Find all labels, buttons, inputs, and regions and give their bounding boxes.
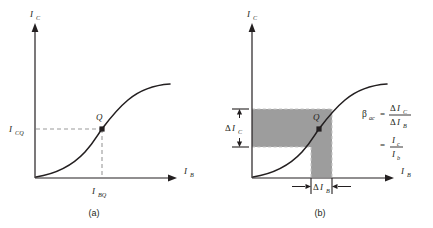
formula-numerator-delta: Δ (390, 103, 396, 113)
panel-a-y-axis-label: I C (29, 9, 41, 21)
beta-symbol: β (362, 109, 367, 119)
panel-a-y-axis (32, 23, 39, 178)
panel-b-q-point-marker (316, 126, 321, 131)
panel-a-ibq-label-sub: BQ (98, 191, 107, 198)
formula-equals-second: = (380, 140, 385, 150)
formula-numerator2-sub: c (397, 140, 400, 147)
panel-b-delta-ib-label: I (319, 182, 324, 192)
panel-b-y-axis (249, 23, 256, 178)
panel-b: I C I B Q Δ I C (225, 9, 411, 218)
panel-b-y-axis-label: I C (246, 9, 258, 21)
panel-b-y-axis-label-sub: C (253, 14, 258, 21)
formula-denominator-delta: Δ (390, 117, 396, 127)
panel-a-q-point-marker (99, 126, 104, 131)
panel-b-delta-ic-dimension: Δ I C (225, 109, 249, 147)
panel-b-delta-ib-sub: B (326, 187, 330, 194)
panel-a-icq-label-text: I (8, 124, 13, 134)
panel-b-y-axis-label-text: I (246, 9, 251, 19)
panel-a-q-point-label: Q (96, 112, 103, 122)
formula-numerator-sub: C (403, 108, 408, 115)
formula-denominator-sub: B (403, 122, 407, 129)
panel-a-x-axis-label: I B (183, 166, 194, 178)
panel-b-delta-ic-sub: C (238, 128, 243, 135)
panel-a-icq-label-sub: CQ (15, 129, 24, 136)
panel-a-ibq-label: I BQ (91, 186, 107, 198)
panel-a: I C I B Q I CQ I BQ (a) (8, 9, 194, 218)
panel-b-caption: (b) (315, 208, 326, 218)
panel-a-icq-label: I CQ (8, 124, 24, 136)
formula-equals-first: = (380, 109, 385, 119)
panel-b-x-axis-label: I B (400, 166, 411, 178)
formula-numerator2-label: I (391, 135, 396, 145)
panel-a-x-axis-label-text: I (183, 166, 188, 176)
panel-a-ibq-label-text: I (91, 186, 96, 196)
panel-a-x-axis-label-sub: B (190, 171, 194, 178)
panel-b-beta-formula: β ac = Δ I C Δ I B = I c I b (362, 103, 411, 161)
panel-b-delta-ib-symbol: Δ (313, 182, 319, 192)
panel-a-x-axis (35, 175, 177, 182)
beta-subscript: ac (369, 114, 375, 121)
panel-a-caption: (a) (89, 208, 100, 218)
panel-b-delta-ib-dimension: Δ I B (292, 178, 351, 194)
formula-numerator-label: I (396, 103, 401, 113)
formula-denominator-label: I (396, 117, 401, 127)
panel-b-x-axis-label-sub: B (407, 171, 411, 178)
formula-denominator2-sub: b (397, 154, 400, 161)
panel-b-x-axis-label-text: I (400, 166, 405, 176)
formula-denominator2-label: I (391, 149, 396, 159)
panel-a-y-axis-label-text: I (29, 9, 34, 19)
panel-b-delta-ic-label: I (231, 123, 236, 133)
panel-a-y-axis-label-sub: C (36, 14, 41, 21)
panel-b-q-point-label: Q (313, 112, 320, 122)
figure-root: I C I B Q I CQ I BQ (a) (0, 0, 433, 228)
panel-b-delta-ic-symbol: Δ (225, 123, 231, 133)
